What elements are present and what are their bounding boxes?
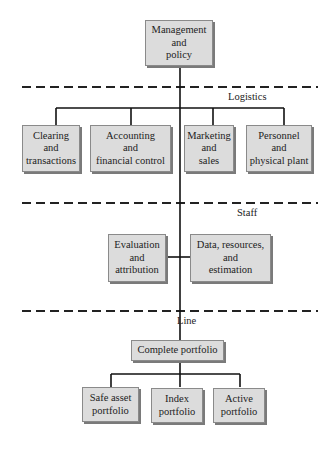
safe-asset-portfolio-box: Safe asset portfolio xyxy=(82,387,139,422)
evaluation-attribution-box: Evaluation and attribution xyxy=(108,234,166,282)
tier-label-logistics: Logistics xyxy=(228,91,267,102)
tier-label-line: Line xyxy=(177,315,196,326)
complete-portfolio-box: Complete portfolio xyxy=(131,340,224,361)
tier-label-staff: Staff xyxy=(237,207,257,218)
personnel-physical-plant-box: Personnel and physical plant xyxy=(246,125,312,172)
clearing-transactions-box: Clearing and transactions xyxy=(22,125,80,172)
connector-lines xyxy=(0,0,334,450)
index-portfolio-box: Index portfolio xyxy=(151,388,203,423)
data-resources-estimation-box: Data, resources, and estimation xyxy=(190,234,271,282)
marketing-sales-box: Marketing and sales xyxy=(184,125,234,172)
management-policy-box: Management and policy xyxy=(145,20,213,66)
active-portfolio-box: Active portfolio xyxy=(213,388,265,423)
accounting-financial-control-box: Accounting and financial control xyxy=(90,125,171,172)
